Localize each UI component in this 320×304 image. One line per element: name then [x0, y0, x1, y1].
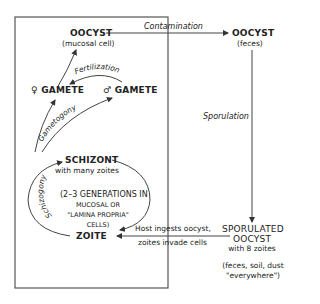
female-gamete: ♀ GAMETE	[31, 85, 84, 95]
sporulated-oocyst: SPORULATED OOCYST with 8 zoites	[222, 224, 282, 254]
contamination-label: Contamination	[144, 22, 203, 32]
host-ingests-line1: Host ingests oocyst,	[135, 224, 211, 234]
oocyst-feces-sub: (feces)	[237, 39, 263, 49]
male-gamete: ♂ GAMETE	[103, 85, 158, 95]
male-symbol-icon: ♂	[103, 85, 111, 95]
generations-note-line2: MUCOSAL OR	[60, 200, 136, 210]
environment-note-line2: "everywhere")	[218, 271, 288, 281]
oocyst-mucosal-sub: (mucosal cell)	[62, 39, 115, 49]
generations-note-line1: (2–3 GENERATIONS IN	[60, 190, 136, 200]
gametogony-label: Gametogony	[36, 102, 78, 143]
generations-note-line4: CELLS)	[60, 220, 136, 230]
generations-note: (2–3 GENERATIONS IN MUCOSAL OR "LAMINA P…	[60, 190, 136, 230]
sporulated-oocyst-line2: OOCYST	[222, 234, 282, 244]
oocyst-mucosal-title: OOCYST	[70, 28, 112, 38]
environment-note-line1: (feces, soil, dust	[218, 261, 288, 271]
sporulated-oocyst-line1: SPORULATED	[222, 224, 282, 234]
schizont-sub: with many zoites	[55, 166, 119, 176]
schizogony-label: Schizogony	[36, 173, 54, 220]
host-ingests-line2: zoites invade cells	[138, 238, 207, 248]
schizont-title: SCHIZONT	[65, 155, 118, 165]
sporulation-label: Sporulation	[203, 112, 249, 122]
oocyst-feces-title: OOCYST	[232, 28, 274, 38]
generations-note-line3: "LAMINA PROPRIA"	[60, 210, 136, 220]
female-gamete-title: GAMETE	[41, 85, 84, 95]
female-symbol-icon: ♀	[31, 85, 38, 95]
male-gamete-title: GAMETE	[115, 85, 158, 95]
environment-note: (feces, soil, dust "everywhere")	[218, 261, 288, 281]
fertilization-label: Fertilization	[73, 62, 121, 76]
zoite-title: ZOITE	[76, 231, 107, 241]
sporulated-oocyst-line3: with 8 zoites	[222, 244, 282, 254]
fertilization-arrow	[70, 75, 122, 84]
